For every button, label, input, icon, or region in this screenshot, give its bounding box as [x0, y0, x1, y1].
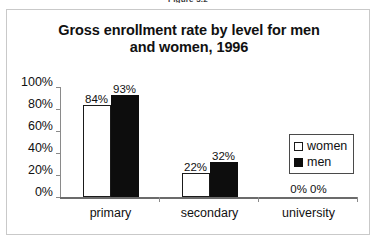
legend-label-women: women [307, 140, 347, 153]
x-axis-line [60, 197, 358, 199]
legend-item-women[interactable]: women [294, 138, 347, 154]
bar-men-secondary[interactable]: 32% [210, 162, 238, 197]
figure-frame: Gross enrollment rate by level for men a… [6, 9, 370, 235]
plot-wrap: 100% 80% 60% 40% 20% 0% 84% [7, 10, 371, 236]
bar-label-university-zero-pair: 0% 0% [290, 183, 326, 195]
bar-label-women-secondary: 22% [184, 161, 207, 173]
bar-group-secondary: 22% 32% [160, 87, 259, 197]
legend-swatch-men-icon [294, 158, 303, 167]
x-category-separator-1 [159, 197, 160, 202]
legend-item-men[interactable]: men [294, 154, 347, 170]
bar-women-primary[interactable]: 84% [83, 105, 111, 197]
bar-label-men-secondary: 32% [212, 150, 235, 162]
legend-label-men: men [307, 156, 331, 169]
x-label-university: university [259, 206, 358, 220]
bar-women-secondary[interactable]: 22% [182, 173, 210, 197]
x-label-primary: primary [61, 206, 160, 220]
x-category-separator-2 [258, 197, 259, 202]
chart-legend: women men [289, 134, 354, 174]
x-label-secondary: secondary [160, 206, 259, 220]
bar-label-men-primary: 93% [113, 83, 136, 95]
legend-swatch-women-icon [294, 142, 303, 151]
figure-caption: Figure 3.2 [0, 0, 376, 3]
bar-group-primary: 84% 93% [61, 87, 160, 197]
x-axis-category-labels: primary secondary university [61, 206, 358, 228]
bar-men-primary[interactable]: 93% [111, 95, 139, 197]
x-axis-end-tick [357, 197, 358, 202]
bar-label-women-primary: 84% [85, 93, 108, 105]
